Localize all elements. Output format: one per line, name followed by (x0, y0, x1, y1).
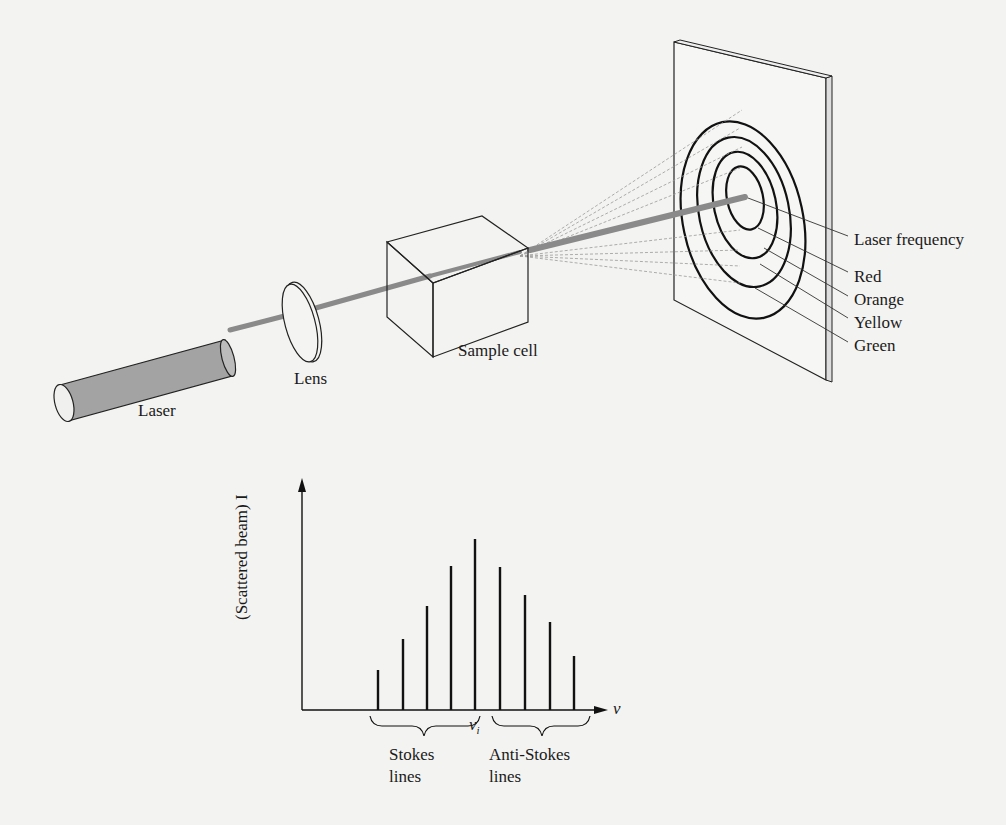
subscript-i: i (477, 724, 480, 736)
y-axis-label: (Scattered beam) I (232, 494, 252, 620)
nu-symbol: ν (469, 715, 477, 734)
green-label: Green (854, 337, 896, 354)
x-axis-label: ν (613, 700, 621, 717)
laser-label: Laser (138, 402, 176, 419)
red-label: Red (854, 268, 881, 285)
spectral-lines (378, 539, 574, 710)
center-frequency-label: νi (469, 716, 480, 736)
anti-stokes-label-line2: lines (489, 768, 521, 785)
yellow-label: Yellow (854, 314, 902, 331)
stokes-label-line2: lines (389, 768, 421, 785)
anti-stokes-label-line1: Anti-Stokes (489, 746, 570, 763)
laser-frequency-label: Laser frequency (854, 231, 964, 248)
sample-cell-label: Sample cell (458, 342, 538, 359)
lens (275, 278, 329, 365)
orange-label: Orange (854, 291, 904, 308)
stokes-label-line1: Stokes (389, 746, 434, 763)
spectrum-chart (298, 478, 608, 736)
sample-cell (387, 216, 528, 357)
lens-label: Lens (294, 370, 327, 387)
